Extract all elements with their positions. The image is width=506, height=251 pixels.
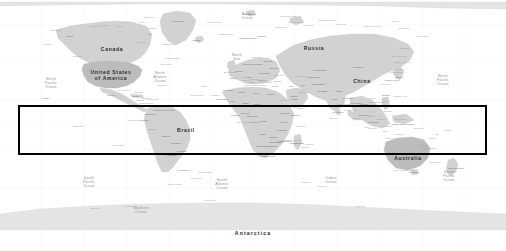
land-antarctica	[0, 203, 506, 230]
land-japan	[393, 66, 404, 80]
selection-rectangle-annotation[interactable]	[18, 105, 487, 155]
land-iceland	[195, 36, 204, 43]
land-novaya-zemlya	[290, 16, 304, 25]
land-cuba	[130, 94, 144, 98]
land-new-zealand	[446, 158, 458, 176]
world-map[interactable]: Baffin BayHudson BayLabrador SeaBering S…	[0, 0, 506, 251]
land-united-states	[82, 61, 142, 88]
land-svalbard	[246, 10, 256, 16]
land-tasmania	[411, 169, 418, 175]
land-greenland	[160, 11, 196, 45]
